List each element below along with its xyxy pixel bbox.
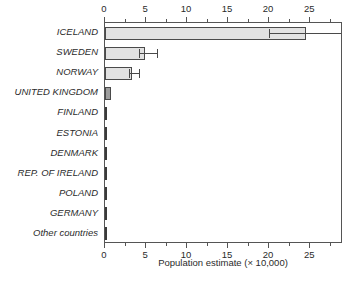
x-tick-major (145, 17, 146, 22)
plot-area (104, 22, 342, 243)
x-tick-major (186, 17, 187, 22)
x-tick-minor (248, 243, 249, 246)
x-tick-major (309, 243, 310, 248)
error-bar-cap-low-norway (129, 69, 130, 78)
x-tick-minor (125, 243, 126, 246)
x-tick-minor (289, 243, 290, 246)
error-bar-cap-low-iceland (269, 29, 270, 38)
x-tick-major (227, 17, 228, 22)
error-bar-cap-low-sweden (139, 49, 140, 58)
category-label-united-kingdom: UNITED KINGDOM (15, 88, 98, 98)
x-tick-label-top-15: 15 (222, 4, 233, 14)
x-tick-minor (166, 19, 167, 22)
category-label-finland: FINLAND (57, 108, 98, 118)
bar-finland (105, 107, 107, 120)
x-tick-minor (289, 19, 290, 22)
x-tick-minor (207, 19, 208, 22)
error-bar-cap-high-norway (139, 69, 140, 78)
x-tick-major (104, 243, 105, 248)
x-tick-minor (330, 243, 331, 246)
category-label-estonia: ESTONIA (56, 128, 98, 138)
x-tick-minor (248, 19, 249, 22)
x-tick-minor (166, 243, 167, 246)
x-tick-label-top-0: 0 (101, 4, 106, 14)
category-label-germany: GERMANY (50, 208, 98, 218)
x-tick-major (309, 17, 310, 22)
category-label-denmark: DENMARK (50, 148, 98, 158)
error-bar-line-iceland (269, 33, 342, 34)
x-tick-minor (330, 19, 331, 22)
bar-united-kingdom (105, 87, 111, 100)
x-tick-label-top-20: 20 (263, 4, 274, 14)
category-label-iceland: ICELAND (57, 27, 98, 37)
category-axis-labels: ICELANDSWEDENNORWAYUNITED KINGDOMFINLAND… (0, 22, 100, 243)
x-tick-label-top-10: 10 (181, 4, 192, 14)
x-tick-major (186, 243, 187, 248)
bar-estonia (105, 127, 107, 140)
x-tick-major (268, 17, 269, 22)
bar-germany (105, 207, 107, 220)
x-axis-title: Population estimate (× 10,000) (104, 258, 342, 268)
category-label-poland: POLAND (59, 188, 98, 198)
x-tick-major (145, 243, 146, 248)
bar-denmark (105, 147, 107, 160)
error-bar-line-sweden (139, 53, 157, 54)
x-tick-major (104, 17, 105, 22)
bar-rep-of-ireland (105, 167, 107, 180)
x-tick-label-top-5: 5 (142, 4, 147, 14)
x-tick-minor (125, 19, 126, 22)
bar-poland (105, 187, 107, 200)
bar-other-countries (105, 227, 107, 240)
x-tick-label-top-25: 25 (304, 4, 315, 14)
bar-chart-figure: ICELANDSWEDENNORWAYUNITED KINGDOMFINLAND… (0, 0, 353, 287)
category-label-norway: NORWAY (56, 67, 98, 77)
error-bar-cap-high-sweden (157, 49, 158, 58)
x-tick-minor (207, 243, 208, 246)
category-label-rep-of-ireland: REP. OF IRELAND (18, 168, 98, 178)
category-label-other-countries: Other countries (33, 228, 98, 238)
category-label-sweden: SWEDEN (56, 47, 98, 57)
x-tick-major (268, 243, 269, 248)
error-bar-line-norway (129, 73, 140, 74)
x-tick-major (227, 243, 228, 248)
